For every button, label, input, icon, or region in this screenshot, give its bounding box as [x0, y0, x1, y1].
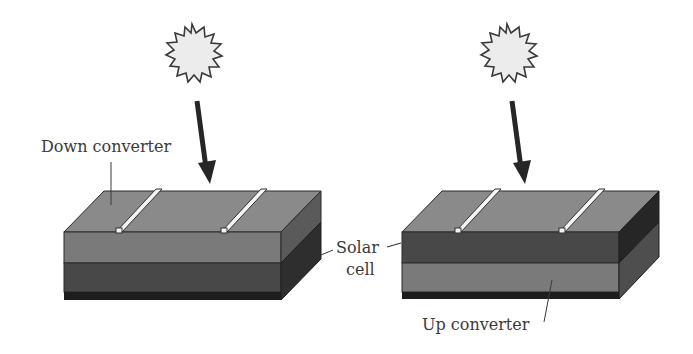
base-strip	[64, 292, 281, 300]
layer-solar-cell	[64, 263, 281, 292]
light-arrow-icon	[512, 101, 531, 184]
label-up-converter: Up converter	[422, 315, 530, 334]
panel-down-converter: Down converter Solar cell	[41, 24, 379, 300]
sun-icon	[166, 24, 222, 82]
layer-down-converter	[64, 232, 281, 263]
leader-line	[321, 250, 333, 255]
diagram-canvas: Down converter Solar cell	[0, 0, 693, 354]
sun-icon	[481, 24, 537, 82]
layer-up-converter	[402, 263, 619, 292]
label-cell: cell	[346, 260, 375, 279]
layer-solar-cell	[402, 232, 619, 263]
top-surface	[402, 191, 659, 232]
device-stack	[402, 189, 659, 299]
leader-line	[387, 243, 401, 247]
top-surface	[64, 191, 321, 232]
light-arrow-icon	[197, 101, 216, 184]
base-strip	[402, 292, 619, 299]
label-down-converter: Down converter	[41, 137, 172, 156]
device-stack	[64, 189, 321, 300]
label-solar: Solar	[336, 238, 379, 257]
panel-up-converter: Up converter	[387, 24, 659, 334]
